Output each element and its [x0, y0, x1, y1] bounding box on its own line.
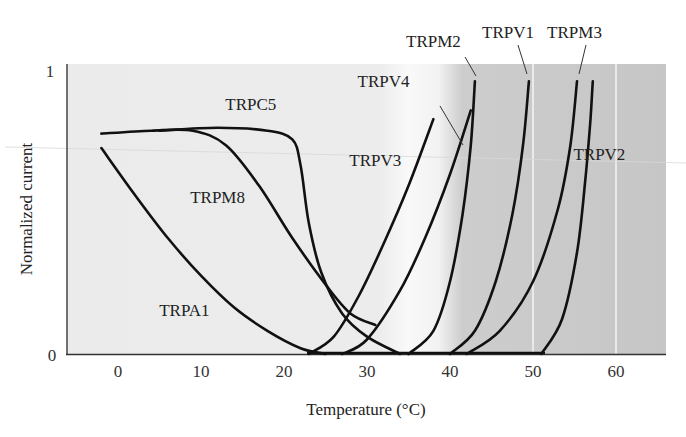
x-tick-40: 40: [442, 362, 459, 381]
label-trpm8: TRPM8: [190, 188, 245, 207]
label-trpv4: TRPV4: [358, 72, 410, 91]
x-axis-title: Temperature (°C): [306, 400, 425, 419]
trp-channel-temperature-chart: 1 0 0102030405060 Temperature (°C) Norma…: [0, 0, 686, 437]
label-trpv1: TRPV1: [482, 23, 534, 42]
label-trpv3: TRPV3: [349, 151, 401, 170]
y-tick-0: 0: [48, 346, 57, 365]
x-tick-10: 10: [193, 362, 210, 381]
y-axis-title: Normalized current: [17, 142, 36, 275]
x-tick-60: 60: [608, 362, 625, 381]
label-trpa1: TRPA1: [159, 301, 209, 320]
label-trpm2: TRPM2: [406, 32, 461, 51]
x-tick-30: 30: [359, 362, 376, 381]
y-tick-1: 1: [46, 62, 55, 81]
label-trpm3: TRPM3: [547, 23, 602, 42]
plot-background: [67, 64, 666, 354]
label-trpv2: TRPV2: [573, 145, 625, 164]
x-tick-50: 50: [525, 362, 542, 381]
label-trpc5: TRPC5: [225, 95, 276, 114]
x-tick-0: 0: [114, 362, 123, 381]
x-tick-labels: 0102030405060: [114, 362, 625, 381]
x-tick-20: 20: [276, 362, 293, 381]
